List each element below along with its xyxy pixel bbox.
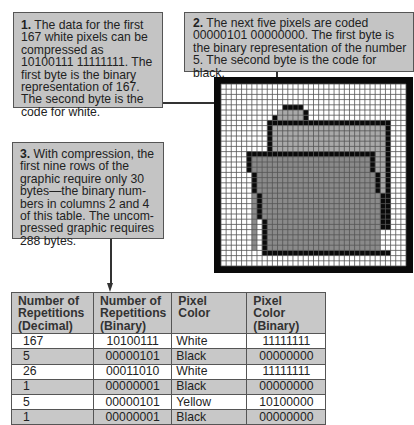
header-repetitions-binary: Number of Repetitions (Binary) bbox=[94, 293, 172, 334]
callout-1: 1. The data for the first 167 white pixe… bbox=[13, 12, 163, 108]
cell-color-binary: 00000000 bbox=[247, 349, 326, 364]
cell-decimal: 5 bbox=[12, 349, 94, 364]
cell-color-binary: 10100000 bbox=[247, 394, 326, 409]
cell-decimal: 1 bbox=[12, 410, 94, 425]
header-line: (Decimal) bbox=[18, 320, 88, 332]
cell-binary: 10100111 bbox=[94, 334, 172, 349]
cell-color: Black bbox=[172, 349, 247, 364]
table-row: 1 00000001 Black 00000000 bbox=[12, 410, 326, 425]
header-line bbox=[178, 320, 241, 332]
cell-color-binary: 00000000 bbox=[247, 379, 326, 394]
cell-decimal: 1 bbox=[12, 379, 94, 394]
header-pixel-color-binary: Pixel Color (Binary) bbox=[247, 293, 326, 334]
header-line: Repetitions bbox=[18, 307, 88, 319]
folder-pixel-graphic bbox=[214, 77, 413, 273]
cell-color: White bbox=[172, 364, 247, 379]
callout-2-text: The next five pixels are coded 00000101 … bbox=[193, 16, 406, 80]
header-line: Color bbox=[178, 307, 241, 319]
header-line: Color bbox=[253, 307, 320, 319]
callout-1-text: The data for the first 167 white pixels … bbox=[21, 18, 152, 119]
folder-icon bbox=[214, 77, 413, 273]
table-header-row: Number of Repetitions (Decimal) Number o… bbox=[12, 293, 326, 334]
cell-binary: 00000001 bbox=[94, 379, 172, 394]
table-row: 1 00000001 Black 00000000 bbox=[12, 379, 326, 394]
table-row: 26 00011010 White 11111111 bbox=[12, 364, 326, 379]
cell-decimal: 167 bbox=[12, 334, 94, 349]
compression-table: Number of Repetitions (Decimal) Number o… bbox=[11, 292, 326, 425]
cell-color-binary: 11111111 bbox=[247, 334, 326, 349]
cell-binary: 00011010 bbox=[94, 364, 172, 379]
callout-2: 2. The next five pixels are coded 000001… bbox=[184, 12, 414, 72]
cell-color: Black bbox=[172, 410, 247, 425]
callout-3: 3. With compression, the first nine rows… bbox=[12, 142, 164, 239]
header-line: (Binary) bbox=[253, 320, 320, 332]
table-row: 5 00000101 Black 00000000 bbox=[12, 349, 326, 364]
header-pixel-color: Pixel Color bbox=[172, 293, 247, 334]
header-line: Repetitions bbox=[100, 307, 166, 319]
cell-color: White bbox=[172, 334, 247, 349]
header-line: (Binary) bbox=[100, 320, 166, 332]
arrow-down-icon bbox=[107, 283, 113, 292]
cell-decimal: 26 bbox=[12, 364, 94, 379]
cell-color-binary: 11111111 bbox=[247, 364, 326, 379]
cell-binary: 00000001 bbox=[94, 410, 172, 425]
cell-decimal: 5 bbox=[12, 394, 94, 409]
cell-color-binary: 00000000 bbox=[247, 410, 326, 425]
cell-binary: 00000101 bbox=[94, 394, 172, 409]
table-row: 167 10100111 White 11111111 bbox=[12, 334, 326, 349]
connector-3-vertical bbox=[110, 239, 112, 284]
callout-3-text: With compression, the first nine rows of… bbox=[20, 147, 154, 248]
table-row: 5 00000101 Yellow 10100000 bbox=[12, 394, 326, 409]
cell-color: Yellow bbox=[172, 394, 247, 409]
cell-binary: 00000101 bbox=[94, 349, 172, 364]
header-repetitions-decimal: Number of Repetitions (Decimal) bbox=[12, 293, 94, 334]
cell-color: Black bbox=[172, 379, 247, 394]
